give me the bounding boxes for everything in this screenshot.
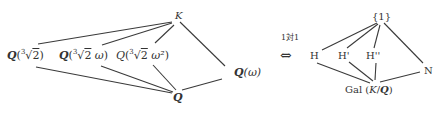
field-K-label: K — [175, 10, 182, 21]
edge-K-Q-w — [180, 22, 225, 66]
edge-Q-cbrt2-Q — [36, 67, 172, 93]
edge-H1-Gal — [349, 62, 373, 81]
edge-H2-Gal — [375, 63, 376, 80]
galois-group: Gal (K/Q) — [345, 85, 393, 95]
edge-1-N — [384, 23, 423, 63]
field-arg: (ω) — [244, 66, 262, 79]
field-Q: Q — [173, 92, 183, 103]
paren-close: ) — [39, 49, 43, 62]
gal-prefix: Gal ( — [345, 84, 369, 95]
extra-factor: ω — [91, 49, 103, 62]
edge-Q-w-Q — [182, 79, 222, 90]
group-trivial: {1} — [372, 12, 391, 22]
extra-factor: ω² — [148, 49, 165, 62]
gal-base: Q — [380, 84, 389, 95]
field-K: K — [175, 11, 182, 21]
field-base: Q — [59, 49, 69, 62]
group-N-label: N — [424, 65, 433, 76]
group-trivial-label: {1} — [372, 11, 391, 22]
one-to-one-text: 1対1 — [281, 33, 299, 42]
group-H: H — [310, 51, 319, 61]
edge-N-Gal — [380, 72, 420, 82]
group-H-prime-label: H' — [338, 50, 349, 61]
field-base: Q — [234, 66, 244, 79]
correspondence-label: 1対1 — [281, 34, 299, 42]
edge-Q-cbrt2w-Q — [101, 66, 173, 92]
radical-sign: √ — [134, 49, 141, 62]
root-index: 3 — [21, 48, 25, 56]
field-Q-cbrt2: Q(3√2) — [7, 50, 44, 61]
group-H-label: H — [310, 50, 319, 61]
paren-close: ) — [104, 49, 108, 62]
field-Q-label: Q — [173, 91, 183, 104]
group-N: N — [424, 66, 433, 76]
group-H-double-prime-label: H'' — [366, 50, 380, 61]
root-index: 3 — [129, 48, 133, 56]
iff-arrow: ⇔ — [280, 47, 292, 63]
field-Q-cbrt2-omega: Q(3√2 ω) — [59, 50, 108, 61]
field-base: Q — [116, 49, 125, 62]
radicand: 2 — [141, 49, 148, 62]
field-Q-cbrt2-omega2: Q(3√2 ω²) — [116, 50, 169, 61]
group-H-double-prime: H'' — [366, 51, 380, 61]
edge-K-Q-cbrt2w — [102, 23, 172, 45]
paren-close: ) — [165, 49, 169, 62]
edge-K-Q-cbrt2 — [38, 22, 172, 44]
gal-field: K — [369, 84, 376, 95]
edge-1-H2 — [374, 25, 380, 48]
field-Q-omega: Q(ω) — [234, 67, 261, 78]
root-index: 3 — [73, 48, 77, 56]
group-H-prime: H' — [338, 51, 349, 61]
field-base: Q — [7, 49, 17, 62]
double-arrow-icon: ⇔ — [280, 48, 292, 62]
gal-suffix: ) — [389, 84, 393, 95]
